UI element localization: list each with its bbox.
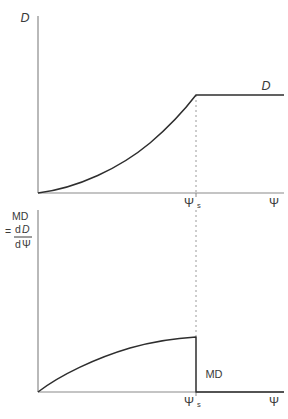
lower-y-axis-label: MD = d D d Ψ <box>5 210 32 250</box>
upper-y-axis-label: D <box>20 11 29 25</box>
lower-xtick-psi-glyph: Ψ <box>184 395 194 409</box>
lower-xtick-label-psis: Ψ s <box>184 395 201 409</box>
lower-curve-label: MD <box>205 368 222 380</box>
figure-canvas: D D Ψ s Ψ MD <box>0 0 288 419</box>
upper-panel: D D Ψ s Ψ <box>20 11 284 210</box>
upper-curve-label: D <box>261 79 270 93</box>
lower-xtick-psi-subscript: s <box>197 400 201 409</box>
lower-y-label-equals: = <box>5 225 11 237</box>
lower-panel: MD = d D d Ψ MD Ψ s Ψ <box>5 210 284 409</box>
upper-xtick-psi-subscript: s <box>197 201 201 210</box>
lower-y-label-numerator-var: D <box>22 223 30 235</box>
lower-x-axis-label: Ψ <box>269 395 279 409</box>
upper-dose-curve <box>38 95 284 193</box>
upper-xtick-label-psis: Ψ s <box>184 196 201 210</box>
upper-xtick-psi-glyph: Ψ <box>184 196 194 210</box>
lower-md-curve <box>38 337 284 392</box>
upper-x-axis-label: Ψ <box>269 196 279 210</box>
lower-y-label-denominator-var: Ψ <box>22 238 31 250</box>
lower-y-label-md: MD <box>12 210 29 222</box>
dose-response-figure: D D Ψ s Ψ MD <box>0 0 288 419</box>
lower-y-label-numerator-d: d <box>15 223 21 235</box>
lower-y-label-denominator-d: d <box>15 238 21 250</box>
